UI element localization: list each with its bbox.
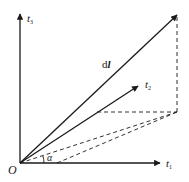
t3-label: t3 <box>27 12 33 25</box>
t2-label: t2 <box>145 78 151 91</box>
dl-label: dl <box>102 58 112 70</box>
t2-vector <box>20 86 138 163</box>
alpha-arc <box>43 156 44 163</box>
dashed-from-t1 <box>57 112 177 163</box>
vector-diagram: t3 dl t2 t1 O α <box>0 0 189 182</box>
dl-vector <box>20 15 177 163</box>
t1-label: t1 <box>166 157 172 170</box>
dashed-projection <box>20 112 177 163</box>
origin-label: O <box>8 163 17 177</box>
alpha-label: α <box>47 152 53 163</box>
